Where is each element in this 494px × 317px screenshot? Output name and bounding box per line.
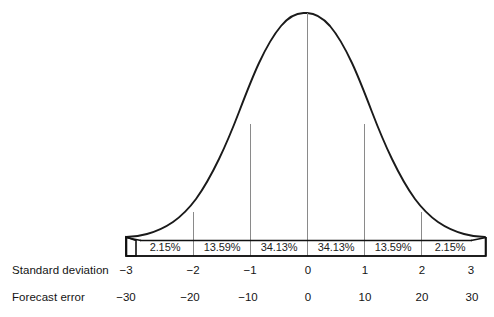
sd-tick-1: 1 [347,264,383,276]
band-label-2-3: 2.15% [421,242,479,253]
bell-curve-path [126,13,485,237]
fe-tick-20: 20 [399,291,445,303]
band-label-neg2-neg1: 13.59% [193,242,251,253]
sd-tick-neg3: −3 [108,264,144,276]
fe-tick-neg30: −30 [103,291,149,303]
band-box-right-shoulder [471,238,486,241]
sd-tick-neg2: −2 [175,264,211,276]
normal-distribution-figure: 2.15% 13.59% 34.13% 34.13% 13.59% 2.15% … [0,0,494,317]
fe-tick-zero: 0 [285,291,331,303]
sd-tick-zero: 0 [290,264,326,276]
sd-tick-3: 3 [453,264,489,276]
axis-row-title-forecast-error: Forecast error [12,291,85,303]
band-label-zero-1: 34.13% [307,242,365,253]
band-label-neg1-zero: 34.13% [250,242,308,253]
fe-tick-30: 30 [449,291,494,303]
fe-tick-neg10: −10 [225,291,271,303]
fe-tick-10: 10 [342,291,388,303]
sd-tick-2: 2 [404,264,440,276]
sd-tick-neg1: −1 [232,264,268,276]
band-label-1-2: 13.59% [364,242,422,253]
axis-row-title-standard-deviation: Standard deviation [12,264,109,276]
band-label-neg3-neg2: 2.15% [136,242,194,253]
fe-tick-neg20: −20 [167,291,213,303]
